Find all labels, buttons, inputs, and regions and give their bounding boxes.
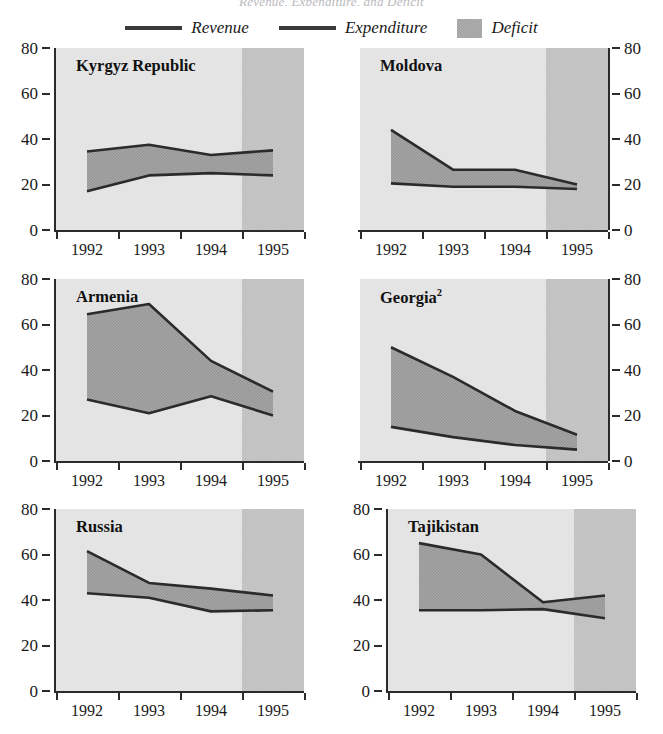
- y-axis-tick-label: 60: [21, 85, 38, 102]
- x-axis-tick-label: 1992: [360, 470, 422, 494]
- y-axis-tick-label: 80: [353, 501, 370, 518]
- x-axis-tick: [484, 232, 486, 239]
- x-axis-tick: [450, 693, 452, 700]
- x-axis-tick: [304, 232, 306, 239]
- tick-mark-icon: [612, 369, 620, 371]
- x-axis-tick: [636, 693, 638, 700]
- x-axis-tick: [118, 463, 120, 470]
- y-axis: 020406080: [608, 48, 662, 230]
- x-axis-tick-label: 1994: [180, 700, 242, 724]
- y-axis-tick-label: 0: [30, 222, 39, 239]
- x-axis-labels: 1992199319941995: [388, 700, 636, 724]
- tick-mark-icon: [42, 645, 50, 647]
- x-axis-tick: [422, 232, 424, 239]
- chart-panel: 0204060801992199319941995Georgia2: [332, 273, 663, 504]
- x-axis-ticks: [360, 463, 608, 470]
- y-axis-tick-label: 40: [21, 131, 38, 148]
- tick-mark-icon: [612, 229, 620, 231]
- x-axis-tick-label: 1992: [388, 700, 450, 724]
- y-axis-tick-label: 20: [21, 637, 38, 654]
- y-axis-tick-label: 0: [624, 222, 633, 239]
- line-swatch-icon: [279, 26, 336, 30]
- y-axis-tick-label: 60: [21, 316, 38, 333]
- y-axis: 020406080: [0, 279, 54, 461]
- deficit-band: [87, 551, 273, 611]
- x-axis-tick: [56, 693, 58, 700]
- panel-title: Georgia2: [380, 287, 442, 308]
- tick-mark-icon: [612, 47, 620, 49]
- tick-mark-icon: [42, 415, 50, 417]
- x-axis-tick: [118, 693, 120, 700]
- tick-mark-icon: [374, 690, 382, 692]
- y-axis-tick-label: 80: [624, 40, 641, 57]
- tick-mark-icon: [612, 415, 620, 417]
- x-axis-tick-label: 1994: [484, 239, 546, 263]
- tick-mark-icon: [42, 93, 50, 95]
- x-axis-tick: [242, 463, 244, 470]
- deficit-band: [391, 347, 577, 449]
- x-axis-labels: 1992199319941995: [56, 700, 304, 724]
- x-axis-tick-label: 1993: [118, 470, 180, 494]
- chart-panel: 0204060801992199319941995Russia: [0, 503, 331, 734]
- tick-mark-icon: [612, 460, 620, 462]
- x-axis-tick: [546, 463, 548, 470]
- deficit-band: [87, 304, 273, 415]
- y-axis-tick-label: 0: [30, 453, 39, 470]
- y-axis-tick-label: 20: [21, 176, 38, 193]
- tick-mark-icon: [612, 278, 620, 280]
- chart-panel: 0204060801992199319941995Kyrgyz Republic: [0, 42, 331, 273]
- x-axis-tick-label: 1995: [242, 470, 304, 494]
- panel-grid: 0204060801992199319941995Kyrgyz Republic…: [0, 42, 663, 734]
- y-axis-spine: [608, 48, 610, 230]
- tick-mark-icon: [42, 229, 50, 231]
- tick-mark-icon: [42, 460, 50, 462]
- y-axis-tick-label: 60: [624, 316, 641, 333]
- chart-panel: 0204060801992199319941995Armenia: [0, 273, 331, 504]
- tick-mark-icon: [612, 324, 620, 326]
- y-axis-tick-label: 60: [353, 546, 370, 563]
- x-axis-tick: [484, 463, 486, 470]
- tick-mark-icon: [42, 508, 50, 510]
- x-axis-tick-label: 1995: [574, 700, 636, 724]
- y-axis-tick-label: 20: [21, 407, 38, 424]
- x-axis-tick: [512, 693, 514, 700]
- panel-title: Moldova: [380, 56, 442, 76]
- x-axis-tick: [304, 463, 306, 470]
- x-axis-labels: 1992199319941995: [360, 470, 608, 494]
- x-axis-tick-label: 1993: [118, 239, 180, 263]
- tick-mark-icon: [374, 599, 382, 601]
- legend-item-expenditure: Expenditure: [279, 18, 427, 38]
- y-axis-tick-label: 20: [353, 637, 370, 654]
- y-axis-tick-label: 40: [624, 131, 641, 148]
- tick-mark-icon: [612, 184, 620, 186]
- x-axis-tick-label: 1994: [180, 239, 242, 263]
- x-axis-ticks: [56, 463, 304, 470]
- y-axis: 020406080: [608, 279, 662, 461]
- x-axis-tick: [56, 463, 58, 470]
- y-axis-tick-label: 20: [624, 407, 641, 424]
- panel-title: Russia: [76, 517, 123, 537]
- x-axis-tick: [180, 232, 182, 239]
- legend-item-revenue: Revenue: [125, 18, 249, 38]
- x-axis-tick-label: 1994: [512, 700, 574, 724]
- panel-title-footnote-marker: 2: [437, 287, 442, 298]
- x-axis-tick: [180, 693, 182, 700]
- tick-mark-icon: [42, 690, 50, 692]
- x-axis-tick: [422, 463, 424, 470]
- x-axis-tick-label: 1992: [56, 700, 118, 724]
- panel-title: Kyrgyz Republic: [76, 56, 196, 76]
- x-axis-tick: [56, 232, 58, 239]
- chart-panel: 0204060801992199319941995Tajikistan: [332, 503, 663, 734]
- x-axis-tick-label: 1992: [360, 239, 422, 263]
- legend-label-deficit: Deficit: [491, 18, 537, 38]
- x-axis-tick-label: 1995: [242, 700, 304, 724]
- x-axis-tick-label: 1994: [180, 470, 242, 494]
- y-axis-tick-label: 40: [624, 362, 641, 379]
- legend: Revenue Expenditure Deficit: [0, 16, 663, 40]
- x-axis-tick: [118, 232, 120, 239]
- tick-mark-icon: [374, 554, 382, 556]
- y-axis-tick-label: 80: [21, 501, 38, 518]
- x-axis-tick: [304, 693, 306, 700]
- x-axis-ticks: [360, 232, 608, 239]
- x-axis-tick: [608, 232, 610, 239]
